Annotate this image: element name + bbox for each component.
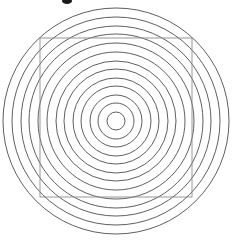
figure-canvas bbox=[0, 0, 233, 241]
concentric-circles-diagram bbox=[0, 0, 233, 241]
canvas-background bbox=[0, 0, 233, 241]
